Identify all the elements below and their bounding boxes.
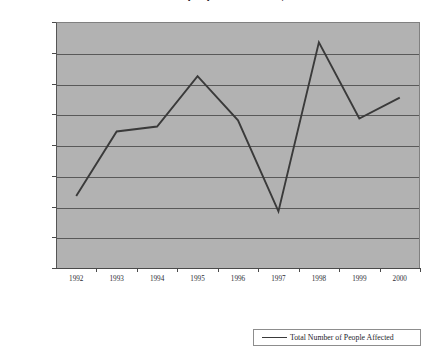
x-axis-tick-label: 1995: [178, 275, 218, 283]
x-axis-tick-label: 1997: [258, 275, 298, 283]
y-axis-tick-mark: [52, 145, 56, 146]
x-axis-tick-mark: [218, 268, 219, 272]
legend: Total Number of People Affected: [253, 329, 421, 346]
x-axis-tick-label: 1996: [218, 275, 258, 283]
x-axis-line: [56, 268, 421, 269]
x-axis-tick-mark: [258, 268, 259, 272]
x-axis-tick-mark: [420, 268, 421, 272]
gridline: [57, 146, 419, 147]
chart-title: Total number of people affected by disas…: [0, 0, 433, 1]
x-axis-tick-mark: [299, 268, 300, 272]
y-axis-tick-mark: [52, 22, 56, 23]
legend-line-swatch: [262, 337, 287, 338]
chart-figure: Total number of people affected by disas…: [0, 0, 433, 352]
y-axis-tick-mark: [52, 53, 56, 54]
y-axis-tick-mark: [52, 84, 56, 85]
gridline: [57, 238, 419, 239]
plot-area: [56, 22, 420, 268]
y-axis-tick-mark: [52, 237, 56, 238]
legend-label: Total Number of People Affected: [290, 333, 394, 342]
gridline: [57, 54, 419, 55]
x-axis-tick-label: 1994: [137, 275, 177, 283]
x-axis-tick-label: 1993: [97, 275, 137, 283]
x-axis-tick-mark: [339, 268, 340, 272]
gridline: [57, 85, 419, 86]
y-axis-tick-mark: [52, 114, 56, 115]
x-axis-tick-label: 1999: [339, 275, 379, 283]
x-axis-tick-mark: [177, 268, 178, 272]
gridline: [57, 208, 419, 209]
x-axis-tick-mark: [137, 268, 138, 272]
x-axis-tick-mark: [380, 268, 381, 272]
y-axis-tick-mark: [52, 268, 56, 269]
x-axis-tick-label: 1998: [299, 275, 339, 283]
gridline: [57, 115, 419, 116]
y-axis-tick-mark: [52, 207, 56, 208]
x-axis-tick-label: 1992: [56, 275, 96, 283]
gridline: [57, 177, 419, 178]
x-axis-tick-label: 2000: [380, 275, 420, 283]
x-axis-tick-mark: [96, 268, 97, 272]
y-axis-tick-mark: [52, 176, 56, 177]
